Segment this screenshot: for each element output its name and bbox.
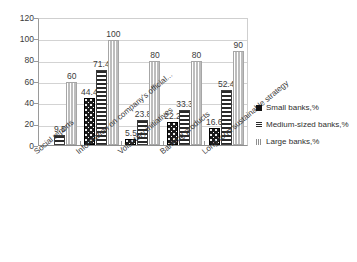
legend-item[interactable]: Small banks,%: [256, 103, 356, 112]
legend-swatch-icon: [256, 122, 262, 128]
bar: 80: [191, 61, 202, 145]
x-axis-labels: Social reportsInformation on company's o…: [0, 148, 357, 258]
y-axis-tick-label: 20: [2, 120, 34, 129]
legend-swatch-icon: [256, 105, 262, 111]
legend-item[interactable]: Large banks,%: [256, 137, 356, 146]
bar-value-label: 90: [233, 41, 242, 50]
y-axis-tick-label: 80: [2, 56, 34, 65]
legend-item[interactable]: Medium-sized banks,%: [256, 120, 356, 129]
bar-value-label: 60: [67, 72, 76, 81]
chart-legend: Small banks,%Medium-sized banks,%Large b…: [256, 103, 356, 154]
legend-label: Large banks,%: [266, 138, 319, 146]
y-axis-tick-label: 60: [2, 78, 34, 87]
legend-swatch-icon: [256, 139, 262, 145]
legend-label: Medium-sized banks,%: [266, 121, 349, 129]
y-axis-tick-label: 100: [2, 35, 34, 44]
y-axis-tick-label: 120: [2, 14, 34, 23]
legend-label: Small banks,%: [266, 104, 319, 112]
bar: 60: [66, 82, 77, 145]
y-axis-tick-label: 40: [2, 99, 34, 108]
bar: 80: [149, 61, 160, 145]
bar-value-label: 80: [150, 51, 159, 60]
bar-value-label: 80: [192, 51, 201, 60]
bar-chart: 120100806040200 9.56044.471.41005.523.88…: [0, 0, 357, 262]
bar-value-label: 100: [106, 30, 120, 39]
